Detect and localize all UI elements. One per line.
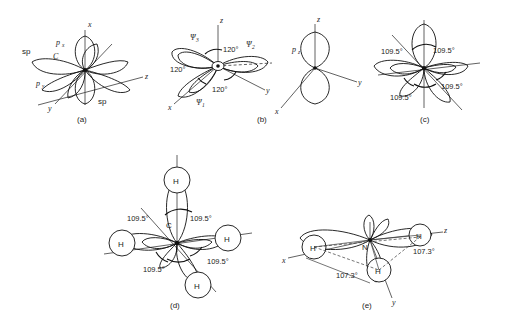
orbital-label-psi1-sub-b: 1 <box>202 102 205 108</box>
atom-label-h-right-d: H <box>224 235 230 244</box>
orbital-hybridization-figure: x z y sp sp p x p y C (a) 120° <box>0 0 507 323</box>
axis-y-line-pz <box>315 68 357 82</box>
panel-c: 109.5° 109.5° 109.5° 109.5° (c) <box>374 20 480 124</box>
orbital-lobe-sp-right-a <box>85 70 130 93</box>
angle-label-upper-right-c: 109.5° <box>433 46 455 55</box>
atom-label-h-right-e: H <box>416 232 422 241</box>
atom-label-h-left-e: H <box>310 244 316 253</box>
orbital-lobe-pz-down <box>301 68 330 104</box>
atom-label-h-bottom-d: H <box>194 282 200 291</box>
angle-label-upper-left-d: 109.5° <box>127 214 149 223</box>
axis-label-y-pz: y <box>357 78 362 87</box>
label-px-a: p <box>55 38 60 47</box>
axis-label-y-a: y <box>47 104 52 113</box>
orbital-label-psi3-sub-b: 3 <box>195 37 199 43</box>
angle-arc-left-c <box>404 78 414 86</box>
caption-e: (e) <box>362 301 372 310</box>
atom-label-h-left-d: H <box>118 240 124 249</box>
label-py-sub-a: y <box>41 83 45 89</box>
angle-arc-left-b <box>198 78 206 84</box>
nucleus-a <box>83 68 87 72</box>
axis-label-z-e: z <box>443 226 448 235</box>
angle-label-lower-right-c: 109.5° <box>441 82 463 91</box>
caption-c: (c) <box>420 115 430 124</box>
angle-label-lower-right-d: 109.5° <box>207 257 229 266</box>
label-px-sub-a: x <box>61 42 65 48</box>
panel-e: H H H N 107.3° 107.3° x y z (e) <box>281 215 448 310</box>
angle-label-left-b: 120° <box>170 65 186 74</box>
panel-d: H H H H C 109.5° 109.5° 109.5° 109.5° (d… <box>104 155 252 310</box>
axis-label-x-a: x <box>87 20 92 29</box>
orbital-lobe-lonepair-left-e <box>364 215 374 240</box>
atom-label-h-bottom-e: H <box>375 267 381 276</box>
angle-arc-top-d <box>165 209 192 215</box>
nucleus-e <box>368 238 372 242</box>
atom-label-carbon-d: C <box>166 221 172 230</box>
orbital-lobe-lonepair-right-e <box>370 219 389 240</box>
angle-arc-bottom-c <box>414 84 436 87</box>
angle-label-right-e: 107.3° <box>413 247 435 256</box>
orbital-lobe-left-inner-d <box>142 238 177 249</box>
atom-label-nitrogen-e: N <box>362 243 368 252</box>
axis-label-z-pz: z <box>316 15 321 24</box>
angle-label-lower-left-d: 109.5° <box>143 265 165 274</box>
angle-label-upper-right-d: 109.5° <box>190 214 212 223</box>
nucleus-b <box>216 64 220 68</box>
caption-d: (d) <box>170 301 180 310</box>
axis-label-x-pz: x <box>274 107 279 116</box>
nucleus-pz <box>313 66 317 70</box>
label-sp-upper-a: sp <box>22 47 31 56</box>
axis-label-y-e: y <box>391 298 396 307</box>
angle-label-top-b: 120° <box>223 45 239 54</box>
angle-label-lower-left-c: 109.5° <box>390 93 412 102</box>
angle-arc-top-b <box>205 49 222 54</box>
label-sp-lower-a: sp <box>98 97 107 106</box>
nucleus-d <box>175 241 179 245</box>
axis-label-z-b: z <box>219 16 224 25</box>
axis-label-x-e: x <box>281 256 286 265</box>
panel-b: 120° 120° 120° Ψ 3 Ψ 2 Ψ 1 z y x p z z y… <box>167 15 362 124</box>
orbital-lobe-sp-backright-a <box>85 61 128 74</box>
orbital-label-psi2-sub-b: 2 <box>252 44 255 50</box>
panel-a: x z y sp sp p x p y C (a) <box>22 20 149 124</box>
label-pz: p <box>291 45 296 54</box>
axis-label-x-b: x <box>167 103 172 112</box>
panel-b-pz-figure: p z z y x <box>274 15 362 116</box>
caption-a: (a) <box>77 115 87 124</box>
nucleus-c <box>422 66 426 70</box>
label-py-a: p <box>35 79 40 88</box>
axis-label-z-a: z <box>144 72 149 81</box>
caption-b: (b) <box>257 115 267 124</box>
angle-label-bottom-b: 120° <box>212 85 228 94</box>
atom-label-h-top-d: H <box>173 177 179 186</box>
angle-label-left-e: 107.3° <box>336 271 358 280</box>
label-center-atom-a: C <box>53 52 59 61</box>
axis-label-y-b: y <box>265 86 270 95</box>
angle-label-upper-left-c: 109.5° <box>381 47 403 56</box>
angle-arc-right-b <box>224 72 236 80</box>
